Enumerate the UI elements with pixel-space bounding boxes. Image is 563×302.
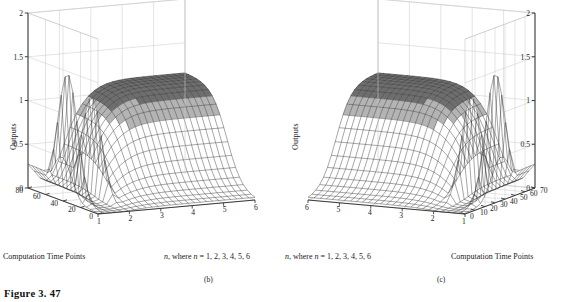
- z-tick-label: 40: [50, 199, 58, 208]
- z-tick-label: 80: [15, 186, 23, 195]
- figure-caption: Figure 3. 47: [4, 288, 61, 299]
- x-tick-label: 3: [160, 211, 164, 220]
- x-axis-caption-c: n, where n = 1, 2, 3, 4, 5, 6: [285, 252, 371, 261]
- z-tick-label: 20: [68, 205, 76, 214]
- x-tick-label: 1: [462, 217, 466, 226]
- y-tick-label: 2: [526, 9, 530, 18]
- x-axis-caption-b: n, where n = 1, 2, 3, 4, 5, 6: [164, 252, 250, 261]
- x-tick-label: 2: [129, 214, 133, 223]
- y-tick-label: 1: [526, 96, 530, 105]
- x-tick-label: 4: [368, 208, 372, 217]
- z-tick-label: 30: [500, 200, 508, 209]
- z-tick-label: 0: [470, 212, 474, 221]
- x-tick-label: 6: [305, 203, 309, 212]
- x-tick-label: 6: [254, 203, 258, 212]
- x-tick-label: 3: [399, 211, 403, 220]
- surface-plot-c: 00.511.52706050403020100123456: [282, 0, 563, 276]
- x-tick-label: 1: [97, 217, 101, 226]
- surface-plot-b: 00.511.52806040200123456: [0, 0, 281, 276]
- plot-panel-b: 00.511.52806040200123456 Outputs Computa…: [0, 0, 281, 276]
- y-tick-label: 1.5: [521, 53, 531, 62]
- y-axis-label-b: Outputs: [9, 123, 18, 150]
- z-tick-label: 60: [33, 192, 41, 201]
- z-axis-caption-b: Computation Time Points: [3, 252, 85, 261]
- y-tick-label: 1: [19, 96, 23, 105]
- z-tick-label: 20: [490, 204, 498, 213]
- z-tick-label: 60: [530, 189, 538, 198]
- z-tick-label: 0: [89, 212, 93, 221]
- y-axis-label-c: Outputs: [291, 123, 300, 150]
- panel-sublabel-b: (b): [204, 275, 213, 284]
- y-tick-label: 0.5: [521, 140, 531, 149]
- plot-panel-c: 00.511.52706050403020100123456 Outputs n…: [282, 0, 563, 276]
- figure-container: 00.511.52806040200123456 Outputs Computa…: [0, 0, 563, 302]
- z-tick-label: 50: [520, 193, 528, 202]
- x-tick-label: 5: [223, 205, 227, 214]
- z-axis-caption-c: Computation Time Points: [451, 252, 533, 261]
- panel-sublabel-c: (c): [437, 275, 445, 284]
- z-tick-label: 40: [510, 197, 518, 206]
- x-tick-label: 4: [191, 208, 195, 217]
- x-tick-label: 2: [431, 214, 435, 223]
- x-tick-label: 5: [337, 205, 341, 214]
- z-tick-label: 70: [540, 186, 548, 195]
- z-tick-label: 10: [480, 208, 488, 217]
- y-tick-label: 2: [19, 9, 23, 18]
- y-tick-label: 1.5: [14, 53, 24, 62]
